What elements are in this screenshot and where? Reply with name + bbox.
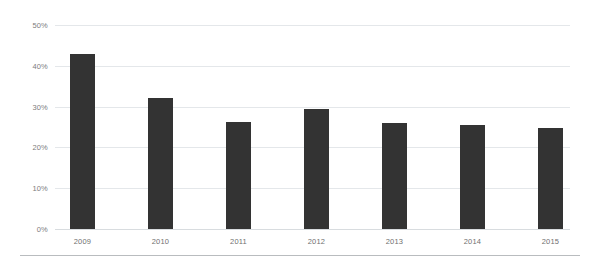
- bar: [304, 109, 329, 229]
- y-axis-tick-label: 30%: [8, 104, 48, 112]
- y-axis-tick-label: 40%: [8, 63, 48, 71]
- x-axis-tick-label: 2015: [521, 238, 581, 246]
- plot-area: [55, 25, 570, 229]
- x-axis-tick-label: 2009: [53, 238, 113, 246]
- bar: [70, 54, 95, 229]
- y-axis-tick-label: 10%: [8, 185, 48, 193]
- gridline: [55, 66, 570, 67]
- footer-divider: [20, 255, 580, 256]
- x-axis-tick-label: 2010: [131, 238, 191, 246]
- x-axis-tick-label: 2012: [287, 238, 347, 246]
- bar: [538, 128, 563, 229]
- x-axis-tick-label: 2013: [365, 238, 425, 246]
- bar: [460, 125, 485, 229]
- chart-figure: 0%10%20%30%40%50%20092010201120122013201…: [0, 0, 592, 269]
- gridline: [55, 107, 570, 108]
- gridline: [55, 229, 570, 230]
- bar: [382, 123, 407, 229]
- bar: [148, 98, 173, 229]
- gridline: [55, 25, 570, 26]
- bar: [226, 122, 251, 229]
- y-axis-tick-label: 0%: [8, 226, 48, 234]
- x-axis-tick-label: 2014: [443, 238, 503, 246]
- y-axis-tick-label: 20%: [8, 144, 48, 152]
- y-axis-tick-label: 50%: [8, 22, 48, 30]
- x-axis-tick-label: 2011: [209, 238, 269, 246]
